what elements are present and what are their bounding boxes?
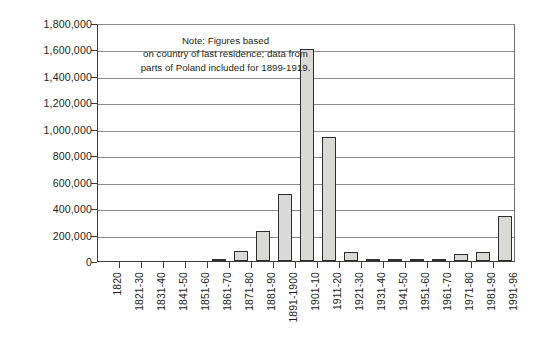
x-axis-tick-mark (207, 262, 208, 268)
bar (366, 259, 380, 261)
x-axis-tick-mark (141, 262, 142, 268)
bar (234, 251, 248, 261)
x-axis-tick-label: 1831-40 (156, 272, 167, 311)
y-axis-tick-label: 1,000,000 (4, 124, 92, 136)
x-axis-tick-label: 1841-50 (178, 272, 189, 311)
y-axis-tick-label: 200,000 (4, 230, 92, 242)
bar (454, 254, 468, 261)
x-axis-tick-label: 1941-50 (398, 272, 409, 311)
x-axis-tick-label: 1871-80 (244, 272, 255, 311)
x-axis-tick-mark (339, 262, 340, 268)
bar (410, 259, 424, 261)
x-axis-tick-mark (317, 262, 318, 268)
x-axis-tick-label: 1961-70 (442, 272, 453, 311)
y-axis-tick-label: 1,200,000 (4, 97, 92, 109)
y-axis-tick-label: 400,000 (4, 203, 92, 215)
x-axis-tick-mark (471, 262, 472, 268)
y-axis-tick-label: 1,400,000 (4, 71, 92, 83)
x-axis-tick-mark (405, 262, 406, 268)
y-axis-tick-label: 0 (4, 256, 92, 268)
x-axis-tick-label: 1931-40 (376, 272, 387, 311)
x-axis-tick-label: 1820 (112, 272, 123, 296)
y-axis-tick-label: 1,800,000 (4, 18, 92, 30)
figures-note: Note: Figures basedon country of last re… (118, 34, 333, 74)
bar (476, 252, 490, 261)
x-axis-tick-mark (427, 262, 428, 268)
x-axis-tick-label: 1851-60 (200, 272, 211, 311)
figures-note-line: Note: Figures based (118, 34, 333, 47)
x-axis-tick-label: 1911-20 (332, 272, 343, 310)
x-axis-tick-label: 1981-90 (486, 272, 497, 311)
bar (388, 259, 402, 261)
y-axis: 1,800,0001,600,0001,400,0001,200,0001,00… (0, 0, 92, 346)
x-axis-tick-label: 1921-30 (354, 272, 365, 311)
x-axis-tick-label: 1861-70 (222, 272, 233, 311)
bar (322, 137, 336, 261)
x-axis-tick-label: 1881-90 (266, 272, 277, 311)
bar (300, 49, 314, 261)
y-axis-tick-label: 800,000 (4, 150, 92, 162)
x-axis-tick-mark (185, 262, 186, 268)
bar (344, 252, 358, 261)
y-axis-tick-mark (91, 262, 97, 263)
bar (256, 231, 270, 261)
x-axis-tick-mark (163, 262, 164, 268)
figures-note-line: on country of last residence; data from (118, 47, 333, 60)
x-axis-tick-mark (119, 262, 120, 268)
x-axis-tick-label: 1951-60 (420, 272, 431, 311)
x-axis-tick-mark (493, 262, 494, 268)
x-axis-tick-label: 1821-30 (134, 272, 145, 311)
bar (278, 194, 292, 261)
bar (432, 259, 446, 261)
y-axis-tick-label: 1,600,000 (4, 44, 92, 56)
x-axis-tick-label: 1991-96 (508, 272, 519, 311)
x-axis-tick-mark (273, 262, 274, 268)
x-axis-tick-mark (229, 262, 230, 268)
y-axis-tick-label: 600,000 (4, 177, 92, 189)
x-axis-tick-mark (251, 262, 252, 268)
x-axis-tick-label: 1971-80 (464, 272, 475, 311)
bar (212, 259, 226, 261)
bar (498, 216, 512, 261)
figures-note-line: parts of Poland included for 1899-1919. (118, 61, 333, 74)
x-axis-tick-mark (295, 262, 296, 268)
x-axis-tick-label: 1901-10 (310, 272, 321, 311)
x-axis-tick-mark (449, 262, 450, 268)
x-axis-tick-mark (383, 262, 384, 268)
x-axis-tick-mark (361, 262, 362, 268)
x-axis-tick-label: 1891-1900 (288, 272, 299, 323)
immigration-bar-chart: 1,800,0001,600,0001,400,0001,200,0001,00… (0, 0, 543, 346)
